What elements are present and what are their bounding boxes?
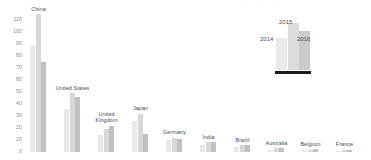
legend-swatch-2015 [288, 23, 299, 70]
bar-belgium-2016 [313, 149, 318, 152]
legend-label-2015: 2015 [279, 19, 292, 25]
chart-legend: 2014 2015 2016 [262, 10, 328, 76]
bar-group: Germany [166, 8, 183, 152]
y-tick-label: 0 [19, 149, 22, 154]
bar-united-kingdom-2014 [98, 135, 103, 152]
bar-stack [268, 148, 285, 152]
bar-france-2016 [347, 150, 352, 152]
bar-group: India [200, 8, 217, 152]
bar-brazil-2015 [240, 145, 245, 152]
bar-australia-2014 [268, 150, 273, 152]
bar-group: France [336, 8, 353, 152]
legend-label-2016: 2016 [297, 36, 310, 42]
bar-france-2014 [336, 151, 341, 152]
category-label-united-kingdom: United Kingdom [90, 111, 124, 123]
bar-germany-2015 [172, 138, 177, 152]
bar-stack [132, 114, 149, 152]
bar-group: United States [64, 8, 81, 152]
legend-label-2014: 2014 [260, 36, 273, 42]
bar-stack [302, 149, 319, 152]
bar-india-2014 [200, 145, 205, 152]
y-tick-label: 20 [16, 125, 22, 130]
category-label-brazil: Brazil [235, 137, 249, 143]
y-axis: 0102030405060708090100110 [0, 0, 24, 160]
legend-swatch-group [276, 23, 311, 70]
bar-stack [200, 142, 217, 152]
y-tick-label: 30 [16, 113, 22, 118]
y-tick-label: 110 [13, 17, 22, 22]
legend-swatch-2014 [276, 38, 287, 70]
bar-group: United Kingdom [98, 8, 115, 152]
y-tick-label: 10 [16, 137, 22, 142]
category-label-japan: Japan [133, 105, 148, 111]
category-label-india: India [202, 134, 214, 140]
y-tick-label: 60 [16, 77, 22, 82]
category-label-australia: Australia [266, 140, 288, 146]
bar-group: China [30, 8, 47, 152]
bar-stack [234, 145, 251, 152]
bar-stack [64, 93, 81, 152]
category-label-germany: Germany [163, 129, 186, 135]
bar-united-states-2016 [75, 97, 80, 152]
bar-australia-2016 [279, 148, 284, 152]
bar-group: Brazil [234, 8, 251, 152]
bar-united-states-2014 [64, 109, 69, 152]
bar-japan-2014 [132, 121, 137, 152]
bar-china-2014 [30, 46, 35, 152]
category-label-china: China [31, 6, 46, 12]
bar-france-2015 [342, 150, 347, 152]
bar-united-states-2015 [70, 93, 75, 152]
bar-stack [30, 14, 47, 152]
y-tick-label: 80 [16, 53, 22, 58]
bar-united-kingdom-2015 [104, 129, 109, 152]
y-tick-label: 50 [16, 89, 22, 94]
category-label-united-states: United States [56, 85, 90, 91]
y-tick-label: 40 [16, 101, 22, 106]
bar-india-2016 [211, 142, 216, 152]
bar-belgium-2015 [308, 150, 313, 152]
bar-china-2016 [41, 62, 46, 152]
bar-australia-2015 [274, 148, 279, 152]
legend-underline [275, 71, 311, 74]
y-tick-label: 90 [16, 41, 22, 46]
bar-group: Japan [132, 8, 149, 152]
category-label-belgium: Belgium [300, 141, 320, 147]
bar-japan-2015 [138, 114, 143, 152]
bar-brazil-2014 [234, 147, 239, 152]
bar-germany-2016 [177, 139, 182, 152]
bar-brazil-2016 [245, 145, 250, 152]
bar-germany-2014 [166, 140, 171, 152]
bar-belgium-2014 [302, 150, 307, 152]
bar-united-kingdom-2016 [109, 126, 114, 152]
bar-japan-2016 [143, 134, 148, 152]
bar-stack [98, 126, 115, 152]
y-tick-label: 70 [16, 65, 22, 70]
y-tick-label: 100 [13, 29, 22, 34]
bar-stack [336, 150, 353, 152]
bar-chart: · · · · · · · · · · · · · · · · · 010203… [0, 0, 371, 160]
bar-india-2015 [206, 142, 211, 152]
bar-stack [166, 138, 183, 152]
bar-china-2015 [36, 14, 41, 152]
category-label-france: France [336, 141, 353, 147]
